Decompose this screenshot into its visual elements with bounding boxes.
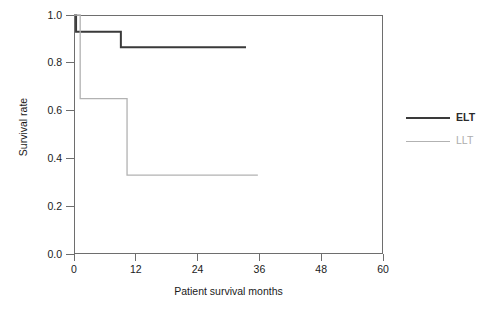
- x-axis-tick-label: 48: [301, 264, 341, 275]
- y-axis-tick-label: 0.2: [30, 201, 62, 212]
- legend-item-elt: ELT: [406, 108, 492, 131]
- x-axis-title: Patient survival months: [74, 285, 383, 297]
- y-axis-tick: [66, 15, 74, 16]
- y-axis-tick: [66, 62, 74, 63]
- x-axis-tick: [259, 254, 260, 261]
- x-axis-tick-label: 24: [178, 264, 218, 275]
- y-axis-tick-label: 0.4: [30, 153, 62, 164]
- x-axis-tick-label: 0: [54, 264, 94, 275]
- y-axis-tick: [66, 206, 74, 207]
- legend: ELT LLT: [406, 108, 492, 154]
- y-axis-tick-label: 0.6: [30, 105, 62, 116]
- legend-swatch-llt-line-icon: [406, 141, 450, 142]
- x-axis-tick: [383, 254, 384, 261]
- legend-label-llt: LLT: [456, 134, 473, 146]
- y-axis-tick-label: 0.0: [30, 249, 62, 260]
- x-axis-tick: [321, 254, 322, 261]
- y-axis-tick: [66, 110, 74, 111]
- y-axis-title-wrap: Survival rate: [14, 0, 32, 254]
- legend-label-elt: ELT: [456, 111, 475, 123]
- x-axis-tick: [197, 254, 198, 261]
- y-axis-tick: [66, 158, 74, 159]
- y-axis-title: Survival rate: [17, 98, 29, 156]
- legend-item-llt: LLT: [406, 131, 492, 154]
- x-axis-tick-label: 12: [116, 264, 156, 275]
- plot-panel: [74, 15, 383, 254]
- legend-swatch-elt-line-icon: [406, 117, 450, 119]
- y-axis-tick-label: 1.0: [30, 10, 62, 21]
- x-axis-tick: [74, 254, 75, 261]
- x-axis-tick: [135, 254, 136, 261]
- y-axis-tick-label: 0.8: [30, 57, 62, 68]
- x-axis-tick-label: 36: [239, 264, 279, 275]
- survival-curve-figure: Survival rate 0.00.20.40.60.81.0 0122436…: [0, 0, 497, 310]
- x-axis-tick-label: 60: [363, 264, 403, 275]
